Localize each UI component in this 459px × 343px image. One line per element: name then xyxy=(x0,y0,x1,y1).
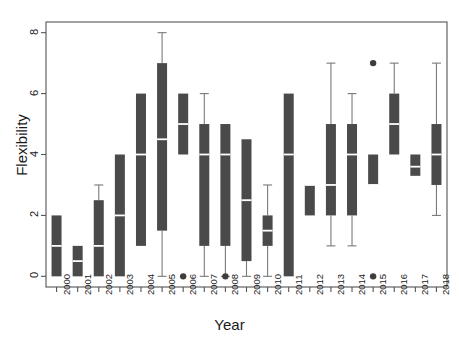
box-plot-group xyxy=(52,215,62,276)
box-iqr xyxy=(347,124,357,215)
x-tick-label: 2012 xyxy=(314,274,325,295)
box-plot-chart: Flexibility Year 02468200020012002200320… xyxy=(0,0,459,343)
box-iqr xyxy=(326,124,336,215)
box-iqr xyxy=(284,94,294,277)
x-tick-label: 2018 xyxy=(440,274,451,295)
y-tick-label: 0 xyxy=(28,268,40,282)
x-tick-label: 2007 xyxy=(208,274,219,295)
x-tick-label: 2013 xyxy=(335,274,346,295)
box-iqr xyxy=(199,124,209,246)
x-tick-label: 2005 xyxy=(166,274,177,295)
x-tick-label: 2004 xyxy=(145,274,156,295)
x-tick-label: 2001 xyxy=(82,274,93,295)
box-plot-group xyxy=(305,185,315,215)
box-plot-group xyxy=(220,124,230,279)
y-tick-label: 8 xyxy=(28,25,40,39)
x-tick-label: 2014 xyxy=(356,274,367,295)
box-iqr xyxy=(368,155,378,185)
x-tick-label: 2010 xyxy=(272,274,283,295)
y-tick-label: 2 xyxy=(28,207,40,221)
box-plot-group xyxy=(410,155,420,176)
outlier-point xyxy=(222,273,228,279)
outlier-point xyxy=(180,273,186,279)
box-plot-group xyxy=(347,94,357,246)
box-plot-group xyxy=(73,246,83,276)
box-plot-group xyxy=(115,155,125,277)
box-plot-group xyxy=(326,63,336,246)
box-plot-group xyxy=(242,139,252,276)
box-plot-group xyxy=(263,185,273,276)
box-plot-group xyxy=(178,94,188,280)
box-iqr xyxy=(305,185,315,215)
x-tick-label: 2011 xyxy=(293,275,304,295)
x-tick-label: 2015 xyxy=(377,274,388,295)
box-plot-group xyxy=(368,60,378,280)
box-iqr xyxy=(220,124,230,246)
y-tick-label: 4 xyxy=(28,147,40,161)
box-iqr xyxy=(410,155,420,176)
x-tick-label: 2002 xyxy=(103,274,114,295)
box-iqr xyxy=(136,94,146,246)
x-tick-label: 2008 xyxy=(229,274,240,295)
x-tick-label: 2009 xyxy=(251,274,262,295)
outlier-point xyxy=(370,273,376,279)
y-tick-label: 6 xyxy=(28,86,40,100)
box-plot-group xyxy=(389,63,399,154)
x-tick-label: 2016 xyxy=(398,274,409,295)
x-tick-label: 2006 xyxy=(187,274,198,295)
box-plot-group xyxy=(136,94,146,246)
box-iqr xyxy=(157,63,167,231)
box-plot-group xyxy=(94,185,104,276)
x-tick-label: 2003 xyxy=(124,274,135,295)
outlier-point xyxy=(370,60,376,66)
x-tick-label: 2000 xyxy=(61,274,72,295)
box-iqr xyxy=(94,200,104,276)
box-plot-group xyxy=(157,33,167,277)
box-plot-group xyxy=(431,63,441,215)
box-plot-group xyxy=(284,94,294,277)
box-plot-group xyxy=(199,94,209,277)
x-tick-label: 2017 xyxy=(419,274,430,295)
